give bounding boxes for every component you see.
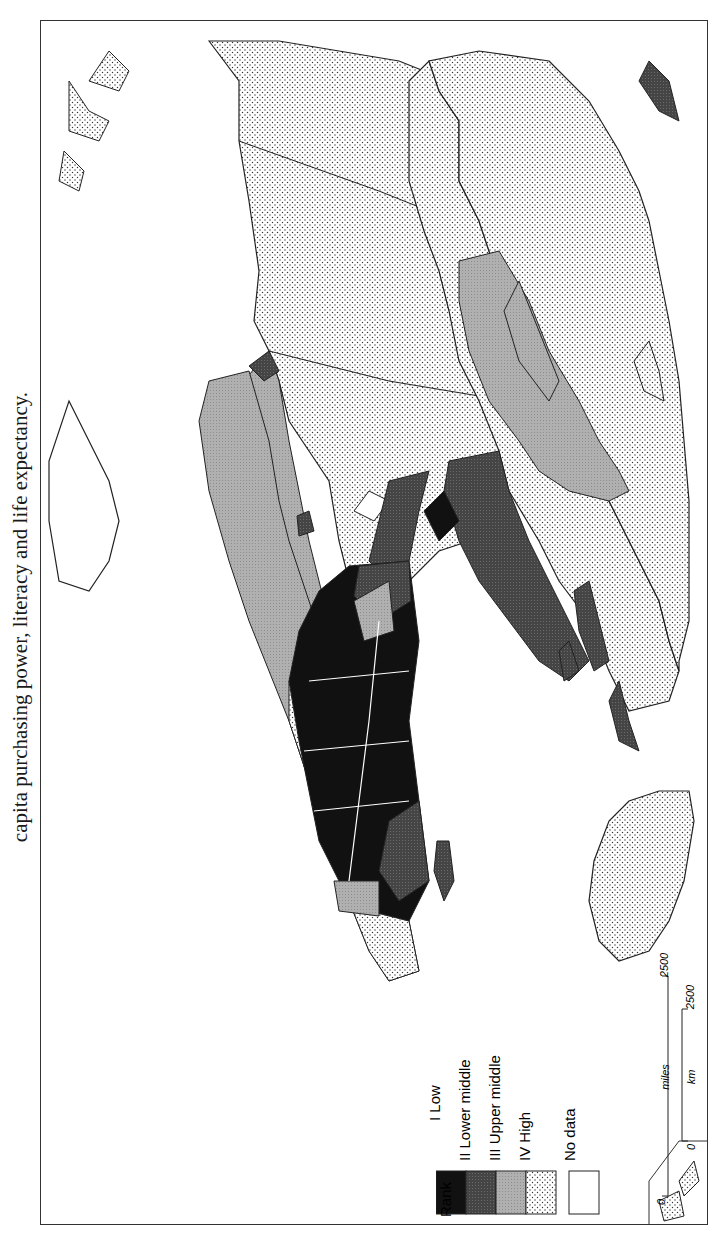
caption-area: capita purchasing power, literacy and li… (0, 0, 40, 1235)
scale-km-start: 0 (685, 1144, 697, 1150)
scale-km-end: 2500 (684, 985, 696, 1009)
scale-km-label: km (685, 1070, 697, 1085)
map-frame: Rank I Low II Lower middle III Upper mid… (40, 20, 708, 1225)
legend-label-upper-middle: III Upper middle (486, 1055, 503, 1161)
south-africa (334, 881, 379, 916)
greenland (49, 401, 119, 591)
legend-label-no-data: No data (561, 1108, 578, 1161)
swatch-lower-middle (466, 1171, 496, 1214)
scale-bar: 2500 miles 0 2500 km 0 (656, 971, 701, 1211)
legend-panel: Rank I Low II Lower middle III Upper mid… (436, 1011, 676, 1221)
scale-miles-end: 2500 (658, 953, 670, 977)
swatch-upper-middle (496, 1171, 526, 1214)
scale-miles-label: miles (659, 1064, 671, 1090)
africa (289, 561, 429, 921)
madagascar (434, 841, 454, 901)
legend-title: Rank (437, 1182, 454, 1217)
australia (589, 791, 694, 961)
scale-miles-start: 0 (655, 1199, 667, 1205)
legend-label-lower-middle: II Lower middle (456, 1059, 473, 1161)
legend-label-low: I Low (426, 1041, 443, 1121)
swatch-no-data (569, 1171, 599, 1214)
swatch-high (526, 1171, 556, 1214)
map-caption: capita purchasing power, literacy and li… (8, 392, 33, 842)
legend-label-high: IV High (516, 1112, 533, 1161)
